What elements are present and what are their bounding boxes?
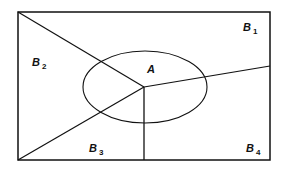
label-b2: B2 xyxy=(32,57,46,68)
label-b3-subscript: 3 xyxy=(99,148,103,157)
partition-line-b2-b3 xyxy=(18,87,144,160)
label-b1-text: B xyxy=(243,21,251,33)
label-b1-subscript: 1 xyxy=(253,27,257,36)
label-b2-subscript: 2 xyxy=(42,62,46,71)
label-b4-text: B xyxy=(246,142,254,154)
label-b3-text: B xyxy=(89,142,97,154)
partition-diagram xyxy=(0,0,283,172)
label-a: A xyxy=(147,64,155,75)
partition-line-b1-b2 xyxy=(18,12,144,87)
label-b3: B3 xyxy=(89,143,103,154)
label-b2-text: B xyxy=(32,56,40,68)
label-b1: B1 xyxy=(243,22,257,33)
label-a-text: A xyxy=(147,63,155,75)
label-b4: B4 xyxy=(246,143,260,154)
label-b4-subscript: 4 xyxy=(256,148,260,157)
